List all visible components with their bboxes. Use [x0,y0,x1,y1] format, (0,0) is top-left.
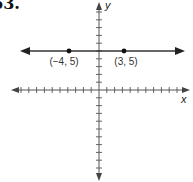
y-axis-up-arrow-icon [96,2,102,10]
point-label-3-5: (3, 5) [114,56,137,67]
point-label-neg4-5: (−4, 5) [49,56,78,67]
y-axis-label: y [105,0,111,11]
x-axis-label: x [181,93,187,105]
line-left-arrow-icon [20,47,30,55]
coordinate-plane-figure: 63. y x (−4, 5) (3, 5) [0,0,193,182]
point-neg4-5 [67,49,72,54]
point-3-5 [122,49,127,54]
line-right-arrow-icon [175,47,185,55]
y-axis-down-arrow-icon [96,173,102,181]
coordinate-plane [0,0,193,182]
x-axis-left-arrow-icon [11,87,19,93]
problem-number: 63. [0,0,20,13]
